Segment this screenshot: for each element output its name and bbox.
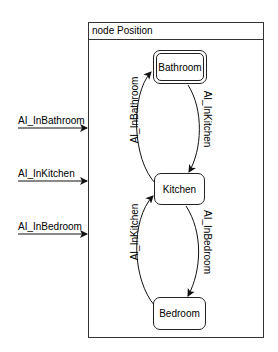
state-bedroom[interactable]: Bedroom — [153, 297, 206, 330]
transition-label-bedroom-to-kitchen: AI_InKitchen — [129, 204, 140, 261]
input-label-kitchen: AI_InKitchen — [18, 168, 75, 179]
state-label: Kitchen — [163, 184, 196, 195]
transition-label-kitchen-to-bedroom: AI_InBedroom — [202, 210, 213, 274]
state-machine-diagram: node Position Bathroom Kitchen Bedroom — [0, 0, 278, 352]
input-label-bedroom: AI_InBedroom — [18, 221, 82, 232]
state-bathroom[interactable]: Bathroom — [153, 50, 207, 84]
state-label: Bedroom — [159, 308, 200, 319]
transition-bathroom-to-kitchen — [188, 85, 199, 172]
input-label-bathroom: AI_InBathroom — [18, 115, 85, 126]
transition-kitchen-to-bedroom — [186, 206, 199, 296]
transition-label-bathroom-to-kitchen: AI_InKitchen — [202, 91, 213, 148]
state-kitchen[interactable]: Kitchen — [154, 173, 205, 205]
state-label: Bathroom — [158, 62, 201, 73]
transition-label-kitchen-to-bathroom: AI_InBathroom — [129, 77, 140, 144]
